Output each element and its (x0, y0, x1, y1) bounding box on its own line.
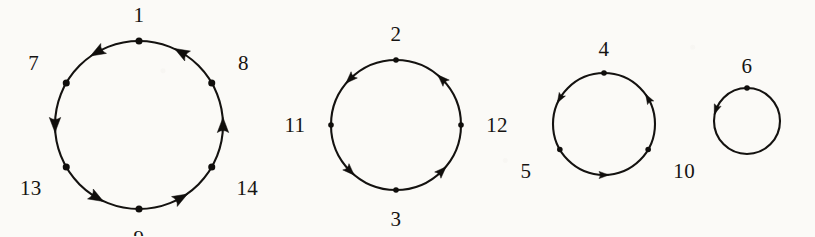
cycle-1-vertex-dot-7 (63, 79, 70, 86)
cycle-3-vertex-dot-4 (601, 70, 607, 76)
cycle-1-arrow-5 (49, 117, 60, 132)
cycle-diagram-svg (0, 0, 815, 236)
vertex-label-13: 13 (20, 178, 42, 199)
cycle-1-arrow-2 (217, 117, 228, 132)
vertex-label-10: 10 (673, 160, 695, 181)
cycle-1-vertex-dot-1 (135, 37, 142, 44)
vertex-label-8: 8 (238, 53, 249, 74)
cycle-1-vertex-dot-8 (208, 79, 215, 86)
cycle-1-arrow-3 (172, 194, 188, 207)
cycle-3-ring (553, 73, 655, 175)
cycle-1-vertex-dot-9 (135, 205, 142, 212)
cycle-3-arrow-3 (557, 92, 565, 102)
vertex-label-1: 1 (134, 5, 145, 26)
cycle-3-arrow-2 (599, 171, 609, 178)
cycle-3-vertex-dot-5 (557, 147, 563, 153)
cycle-4-ring (714, 88, 780, 154)
cycle-2-vertex-dot-3 (393, 187, 399, 193)
vertex-label-2: 2 (391, 24, 402, 45)
cycle-4 (714, 85, 780, 154)
cycle-1-arrow-4 (88, 189, 104, 202)
cycle-1-arrow-1 (174, 48, 190, 61)
vertex-label-5: 5 (520, 160, 531, 181)
vertex-label-11: 11 (285, 115, 306, 136)
cycle-2-vertex-dot-2 (393, 57, 399, 63)
cycle-diagram-canvas: 1814913721231141056 (0, 0, 815, 236)
cycle-1-ring (55, 41, 223, 209)
vertex-label-4: 4 (599, 39, 610, 60)
cycle-1-vertex-dot-13 (63, 163, 70, 170)
cycle-4-vertex-dot-6 (744, 85, 750, 91)
cycle-3-vertex-dot-10 (645, 147, 651, 153)
cycle-1-arrow-6 (90, 43, 106, 56)
vertex-label-7: 7 (28, 53, 39, 74)
cycle-2 (328, 57, 464, 193)
vertex-label-6: 6 (742, 56, 753, 77)
vertex-label-9: 9 (134, 228, 145, 237)
cycle-1 (49, 37, 228, 212)
vertex-label-12: 12 (486, 115, 508, 136)
cycle-3 (553, 70, 655, 178)
cycle-2-vertex-dot-12 (458, 122, 464, 128)
cycle-2-vertex-dot-11 (328, 122, 334, 128)
vertex-label-14: 14 (236, 178, 258, 199)
vertex-label-3: 3 (391, 209, 402, 230)
cycle-1-vertex-dot-14 (208, 163, 215, 170)
